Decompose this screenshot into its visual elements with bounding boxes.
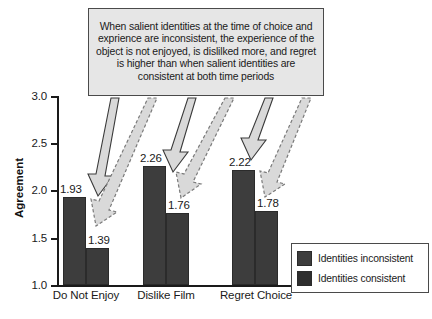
arrow-solid-to-do-not-enjoy xyxy=(88,98,119,196)
y-tick-mark-2 xyxy=(51,238,58,240)
x-label-regret-choice: Regret Choice xyxy=(218,289,294,301)
arrow-solid-to-dislike-film xyxy=(163,98,196,172)
y-tick-label-1-5: 1.5 xyxy=(1,232,47,244)
legend-item-inconsistent[interactable]: Identities inconsistent xyxy=(297,248,423,268)
callout-box: When salient identities at the time of c… xyxy=(88,8,324,96)
bar-do-not-enjoy-inconsistent xyxy=(63,197,86,285)
x-label-do-not-enjoy: Do Not Enjoy xyxy=(48,289,124,301)
y-tick-mark-1 xyxy=(51,285,58,287)
bar-chart-figure: 1.0 1.5 2.0 2.5 3.0 Agreement 1.93 1.39 … xyxy=(0,0,432,319)
bar-dislike-film-consistent xyxy=(166,213,189,285)
arrow-dashed-to-dislike-film xyxy=(176,98,234,198)
bar-regret-choice-inconsistent xyxy=(232,170,255,285)
arrow-solid-to-regret-choice xyxy=(241,98,273,160)
bar-dislike-film-inconsistent xyxy=(143,166,166,285)
bar-value-1-76: 1.76 xyxy=(168,199,190,211)
legend-label-consistent: Identities consistent xyxy=(318,273,405,284)
chart-legend: Identities inconsistent Identities consi… xyxy=(291,243,429,293)
bar-value-2-22: 2.22 xyxy=(229,156,251,168)
y-tick-label-3-0: 3.0 xyxy=(1,90,47,102)
bar-value-2-26: 2.26 xyxy=(140,152,162,164)
bar-value-1-78: 1.78 xyxy=(257,197,279,209)
legend-swatch-icon-inconsistent xyxy=(297,251,312,266)
y-axis-title: Agreement xyxy=(13,148,25,228)
y-tick-mark-4 xyxy=(51,143,58,145)
bar-value-1-39: 1.39 xyxy=(88,234,110,246)
legend-swatch-icon-consistent xyxy=(297,271,312,286)
callout-text: When salient identities at the time of c… xyxy=(96,21,316,84)
bar-value-1-93: 1.93 xyxy=(60,183,82,195)
arrow-dashed-to-regret-choice xyxy=(260,98,311,197)
legend-item-consistent[interactable]: Identities consistent xyxy=(297,268,423,288)
bar-do-not-enjoy-consistent xyxy=(86,248,109,285)
legend-label-inconsistent: Identities inconsistent xyxy=(318,253,413,264)
bar-regret-choice-consistent xyxy=(255,211,278,285)
x-label-dislike-film: Dislike Film xyxy=(130,289,202,301)
y-tick-mark-3 xyxy=(51,190,58,192)
y-tick-mark-5 xyxy=(51,96,58,98)
y-tick-label-1-0: 1.0 xyxy=(1,279,47,291)
